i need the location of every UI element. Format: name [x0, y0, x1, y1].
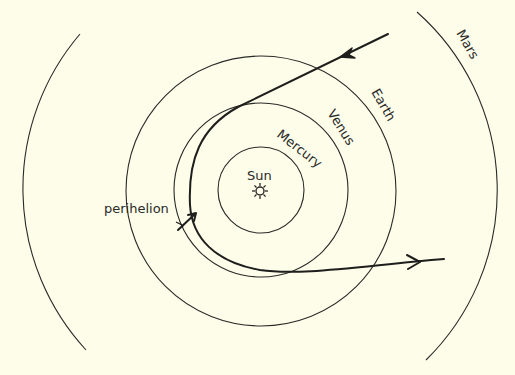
orbit-mercury	[218, 147, 304, 233]
earth-label: Earth	[368, 86, 398, 124]
diagram-canvas: Sun perihelion Mercury Venus Earth Mars	[0, 0, 515, 375]
venus-label: Venus	[324, 107, 358, 148]
orbit-venus	[174, 103, 348, 277]
perihelion-arrow-icon	[178, 213, 196, 230]
sun-label: Sun	[247, 168, 272, 183]
inbound-arrow-icon	[340, 48, 355, 58]
perihelion-label: perihelion	[104, 201, 169, 216]
orbit-mars-right-arc	[417, 12, 497, 360]
mercury-label: Mercury	[274, 127, 325, 171]
mars-label: Mars	[453, 27, 482, 62]
solar-system-diagram: Sun perihelion Mercury Venus Earth Mars	[0, 0, 515, 375]
sun-icon	[252, 183, 268, 199]
orbit-mars-left-arc	[23, 34, 86, 350]
